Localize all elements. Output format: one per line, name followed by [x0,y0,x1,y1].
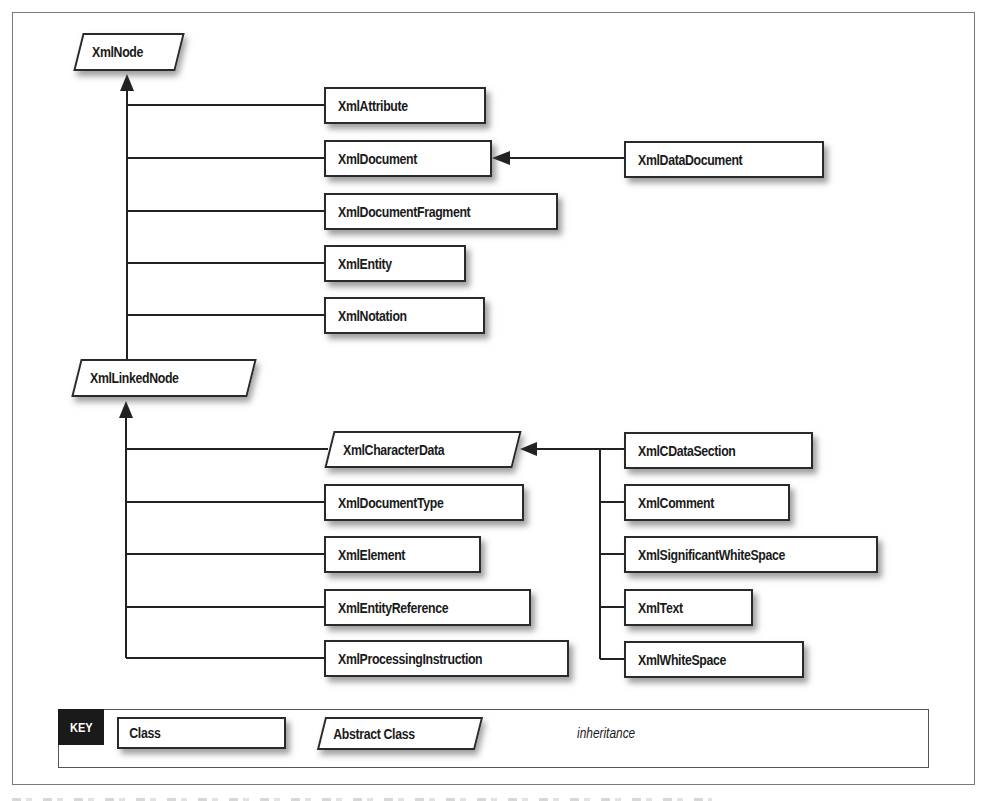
class-label: XmlNotation [324,297,466,334]
class-label: XmlCharacterData [329,431,494,468]
legend-badge-label: KEY [70,720,93,735]
legend-badge: KEY [58,709,104,745]
class-node-xmlnotation[interactable]: XmlNotation [324,297,485,334]
class-label: XmlEntityReference [324,589,506,626]
class-node-xmldocumentfragment[interactable]: XmlDocumentFragment [324,193,558,230]
class-node-xmllinkednode[interactable]: XmlLinkedNode [76,359,252,397]
class-label: XmlSignificantWhiteSpace [624,536,848,573]
class-node-xmldocument[interactable]: XmlDocument [324,140,492,177]
figure-caption-cropped [12,794,712,801]
class-node-xmlentityreference[interactable]: XmlEntityReference [324,589,531,626]
legend-abstract-class-sample: Abstract Class [321,717,479,750]
legend-abstract-class-label: Abstract Class [321,717,460,750]
class-label: XmlNode [78,33,168,71]
class-label: XmlProcessingInstruction [324,640,540,677]
legend-class-sample: Class [117,717,286,749]
legend-inheritance-label: inheritance [577,725,635,741]
class-label: XmlElement [324,536,462,573]
class-node-xmlelement[interactable]: XmlElement [324,536,481,573]
class-node-xmldocumenttype[interactable]: XmlDocumentType [324,484,524,521]
class-node-xmlattribute[interactable]: XmlAttribute [324,87,486,124]
class-label: XmlDocumentFragment [324,193,530,230]
class-node-xmlcharacterdata[interactable]: XmlCharacterData [329,431,517,468]
class-node-xmlwhitespace[interactable]: XmlWhiteSpace [624,641,804,678]
class-node-xmlprocessinginstruction[interactable]: XmlProcessingInstruction [324,640,569,677]
class-label: XmlDocumentType [324,484,500,521]
class-label: XmlAttribute [324,87,467,124]
class-label: XmlDocument [324,140,472,177]
class-label: XmlEntity [324,245,449,282]
class-label: XmlLinkedNode [76,359,231,397]
class-node-xmlentity[interactable]: XmlEntity [324,245,466,282]
class-node-xmlcdatasection[interactable]: XmlCDataSection [624,432,813,469]
class-label: XmlComment [624,484,770,521]
class-node-xmldatadocument[interactable]: XmlDataDocument [624,141,824,178]
class-label: XmlText [624,589,738,626]
class-node-xmlcomment[interactable]: XmlComment [624,484,790,521]
class-node-xmltext[interactable]: XmlText [624,589,753,626]
class-label: XmlWhiteSpace [624,641,782,678]
class-node-xmlnode[interactable]: XmlNode [78,33,180,71]
legend-class-label: Class [117,717,266,749]
class-label: XmlDataDocument [624,141,800,178]
class-node-xmlsignificantwhitespace[interactable]: XmlSignificantWhiteSpace [624,536,878,573]
class-label: XmlCDataSection [624,432,790,469]
